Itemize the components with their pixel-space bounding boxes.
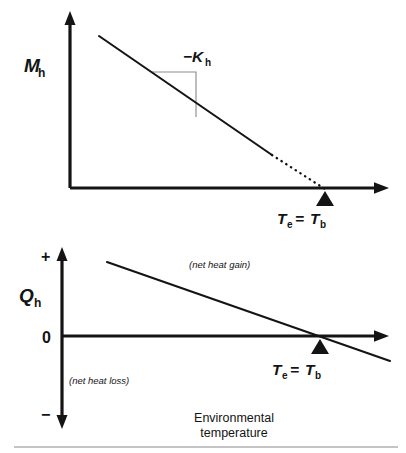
x-axis-title-line1: Environmental (194, 411, 274, 425)
x-axis-title-line2: temperature (200, 426, 267, 440)
net-heat-gain-label: (net heat gain) (189, 259, 250, 270)
net-heat-flow-line (107, 262, 390, 361)
lower-x-axis-arrowhead (374, 330, 389, 342)
lower-y-axis-arrowhead-top (57, 247, 68, 261)
lower-setpoint-marker-icon (311, 339, 329, 354)
lower-y-axis-label: Q (19, 285, 34, 306)
lower-y-axis-arrowhead-bottom (57, 415, 68, 429)
upper-marker-label-equals: = (295, 210, 304, 227)
upper-panel: M h −K h T e = T b (24, 11, 389, 230)
slope-label: −K (183, 48, 205, 65)
slope-guide-triangle (152, 72, 196, 117)
lower-marker-label-equals: = (290, 361, 299, 378)
upper-marker-label-left-subscript: e (287, 219, 293, 230)
upper-marker-label-right-subscript: b (320, 219, 326, 230)
upper-y-axis-arrowhead (65, 11, 76, 25)
net-heat-loss-label: (net heat loss) (69, 375, 129, 386)
thermal-physiology-figure: M h −K h T e = T b Q (0, 0, 406, 453)
lower-panel: Q h + 0 − (net heat gain) (net heat loss… (19, 247, 390, 440)
lower-marker-label-left-subscript: e (282, 370, 288, 381)
lower-y-axis-label-subscript: h (34, 296, 41, 310)
lower-y-tick-minus: − (41, 406, 50, 423)
lower-marker-label-right-subscript: b (315, 370, 321, 381)
upper-setpoint-marker-icon (316, 191, 334, 206)
figure-root: M h −K h T e = T b Q (0, 0, 406, 453)
metabolic-heat-line-extrapolated (272, 155, 325, 189)
upper-x-axis-arrowhead (374, 182, 389, 194)
slope-label-subscript: h (205, 57, 211, 68)
lower-y-tick-plus: + (41, 248, 50, 265)
upper-y-axis-label-subscript: h (38, 66, 45, 80)
lower-y-tick-zero: 0 (42, 329, 51, 346)
